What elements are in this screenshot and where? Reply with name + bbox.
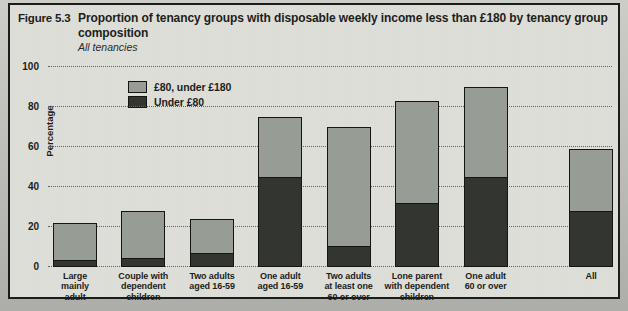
bar-8: [569, 149, 613, 267]
bar-segment-80-under-180: [191, 220, 233, 253]
category-label-1: Large mainly adult: [61, 271, 89, 302]
category-label-8: All: [586, 271, 597, 281]
figure-subtitle: All tenancies: [78, 41, 608, 53]
title-block: Figure 5.3 Proportion of tenancy groups …: [18, 11, 610, 53]
y-tick-0: 0: [7, 261, 39, 272]
y-tick-40: 40: [7, 181, 39, 192]
figure-frame: Figure 5.3 Proportion of tenancy groups …: [8, 3, 620, 299]
figure-title: Proportion of tenancy groups with dispos…: [78, 11, 608, 40]
y-tick-100: 100: [7, 61, 39, 72]
bar-segment-80-under-180: [328, 128, 370, 246]
category-label-2: Couple with dependent children: [118, 271, 168, 302]
bar-segment-under-80: [570, 211, 612, 266]
bar-4: [258, 117, 302, 267]
category-label-6: Lone parent with dependent children: [385, 271, 450, 302]
bar-segment-under-80: [122, 258, 164, 266]
y-axis-ticks: 020406080100: [10, 67, 42, 267]
legend-label-1: £80, under £180: [154, 81, 231, 93]
figure-title-group: Proportion of tenancy groups with dispos…: [78, 11, 608, 53]
bar-segment-under-80: [465, 177, 507, 266]
bar-1: [53, 223, 97, 267]
legend-row-1: £80, under £180: [128, 81, 231, 93]
y-tick-20: 20: [7, 221, 39, 232]
category-label-4: One adult aged 16-59: [258, 271, 304, 292]
category-label-7: One adult 60 or over: [465, 271, 507, 292]
y-tick-80: 80: [7, 101, 39, 112]
figure-label: Figure 5.3: [18, 11, 78, 24]
bar-segment-under-80: [54, 260, 96, 266]
bar-segment-80-under-180: [54, 224, 96, 260]
bar-segment-under-80: [259, 177, 301, 266]
y-tick-60: 60: [7, 141, 39, 152]
bar-6: [395, 101, 439, 267]
bar-5: [327, 127, 371, 267]
plot-area: £80, under £180Under £80: [48, 67, 612, 267]
bar-segment-under-80: [328, 246, 370, 266]
category-label-5: Two adults at least one 60 or over: [324, 271, 372, 302]
legend-swatch-1: [128, 81, 147, 93]
bar-segment-under-80: [191, 253, 233, 266]
x-axis-labels: Large mainly adultCouple with dependent …: [48, 271, 612, 307]
bar-segment-under-80: [396, 203, 438, 266]
bar-segment-80-under-180: [465, 88, 507, 177]
bar-segment-80-under-180: [259, 118, 301, 177]
bar-segment-80-under-180: [122, 212, 164, 258]
bar-2: [121, 211, 165, 267]
gridline-100: [48, 66, 612, 67]
bar-7: [464, 87, 508, 267]
bar-segment-80-under-180: [396, 102, 438, 203]
bar-segment-80-under-180: [570, 150, 612, 211]
gridline-80: [48, 106, 612, 107]
bar-3: [190, 219, 234, 267]
category-label-3: Two adults aged 16-59: [189, 271, 235, 292]
